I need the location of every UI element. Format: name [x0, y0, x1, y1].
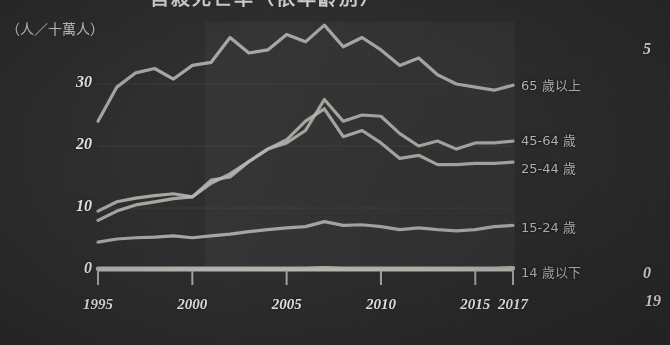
legend-label-2: 45-64 歲 [521, 130, 576, 149]
x-tick-label-2017: 2017 [498, 296, 528, 313]
x-tick-label-2000: 2000 [177, 296, 207, 313]
y-tick-label-0: 0 [0, 259, 92, 277]
series-line-3 [98, 109, 513, 221]
legend-label-3: 25-44 歲 [521, 158, 576, 177]
figure-title-text: 自殺死亡率（依年齡別） [150, 0, 381, 9]
neighbor-chart-ytop: 5 [643, 40, 651, 58]
series-line-4 [98, 222, 513, 242]
line-chart-svg [98, 22, 513, 270]
x-tick-label-2005: 2005 [272, 296, 302, 313]
neighbor-chart-xstart: 19 [645, 292, 661, 310]
legend-label-5: 14 歲以下 [521, 262, 581, 281]
legend-label-4: 15-24 歲 [521, 217, 576, 236]
figure-title-cropped: 自殺死亡率（依年齡別） [0, 0, 670, 9]
x-tick-label-2015: 2015 [460, 296, 490, 313]
x-tick-label-1995: 1995 [83, 296, 113, 313]
x-tick-label-2010: 2010 [366, 296, 396, 313]
y-tick-label-20: 20 [0, 135, 92, 153]
legend-label-1: 65 歲以上 [521, 75, 581, 94]
chart-plot-area [98, 22, 513, 270]
series-line-2 [98, 100, 513, 212]
series-line-1 [98, 25, 513, 121]
y-axis-unit-label: （人／十萬人） [6, 18, 104, 38]
neighbor-chart-ybottom: 0 [643, 264, 651, 282]
y-tick-label-10: 10 [0, 197, 92, 215]
y-tick-label-30: 30 [0, 73, 92, 91]
